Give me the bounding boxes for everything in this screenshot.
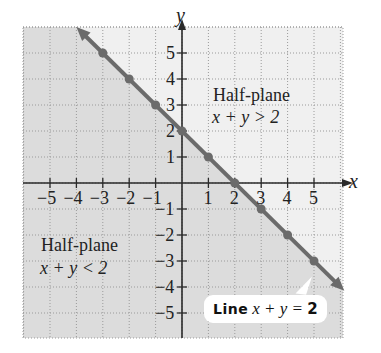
line-point (310, 257, 319, 266)
x-tick-label: −4 (63, 189, 82, 207)
x-tick-label: −2 (116, 189, 135, 207)
callout-equation: x + y = (252, 299, 307, 318)
x-tick-label: −5 (37, 189, 56, 207)
line-point (283, 231, 292, 240)
line-callout: Line x + y = 2 (204, 295, 327, 323)
y-tick-label: 1 (166, 148, 175, 166)
y-tick-label: 5 (166, 44, 175, 62)
y-tick-label: −3 (155, 252, 174, 270)
y-tick-label: −5 (155, 304, 174, 322)
x-tick-label: 1 (203, 189, 212, 207)
y-axis-label: y (176, 5, 185, 25)
line-point (204, 153, 213, 162)
x-tick-label: −3 (90, 189, 109, 207)
y-tick-label: −1 (155, 200, 174, 218)
x-tick-label: 5 (309, 189, 318, 207)
line-point (230, 179, 239, 188)
line-point (151, 101, 160, 110)
line-point (125, 75, 134, 84)
lower-region-inequality: x + y < 2 (40, 259, 107, 277)
line-point (98, 49, 107, 58)
x-axis-label: x (349, 171, 358, 191)
y-tick-label: −2 (155, 226, 174, 244)
line-point (178, 127, 187, 136)
lower-region-title: Half-plane (41, 236, 118, 254)
y-tick-label: 4 (166, 70, 175, 88)
x-tick-label: 3 (256, 189, 265, 207)
x-tick-label: 4 (283, 189, 292, 207)
upper-region-inequality: x + y > 2 (212, 108, 279, 126)
upper-region-title: Half-plane (213, 86, 290, 104)
callout-word: Line (213, 301, 248, 317)
callout-number: 2 (307, 300, 317, 318)
y-tick-label: −4 (155, 278, 174, 296)
y-tick-label: 3 (166, 96, 175, 114)
y-tick-label: 2 (166, 122, 175, 140)
x-tick-label: 2 (230, 189, 239, 207)
